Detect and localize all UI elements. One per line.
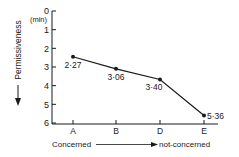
- y-axis-label: Permissiveness: [13, 20, 23, 106]
- data-point: [158, 77, 162, 81]
- x-tick-label: B: [113, 126, 119, 136]
- data-point: [114, 67, 118, 71]
- right-arrow-icon: [151, 142, 158, 147]
- x-tick-label: D: [157, 126, 163, 136]
- y-tick-label: 2: [44, 44, 49, 54]
- x-label-left: Concerned: [52, 140, 91, 149]
- y-tick-label: 6: [44, 118, 49, 128]
- y-ticks: 0123456: [44, 6, 56, 128]
- y-tick-label: 4: [44, 81, 49, 91]
- data-point-label: 2·27: [64, 60, 81, 70]
- data-point-label: 3·06: [107, 72, 124, 82]
- data-line: [73, 57, 204, 116]
- data-points: 2·273·063·405·36: [64, 55, 224, 121]
- data-point-label: 5·36: [207, 111, 224, 121]
- y-unit-label: (min): [30, 15, 48, 24]
- y-axis-title: Permissiveness: [13, 20, 23, 80]
- down-arrow-icon: [15, 98, 21, 106]
- data-point: [202, 114, 206, 118]
- x-ticks: ABDE: [70, 120, 207, 136]
- y-tick-label: 3: [44, 62, 49, 72]
- permissiveness-chart: Permissiveness 0123456 (min) ABDE 2·273·…: [0, 0, 239, 157]
- data-point: [71, 55, 75, 59]
- x-label-right: not-concerned: [159, 140, 210, 149]
- data-point-label: 3·40: [145, 82, 162, 92]
- x-tick-label: E: [201, 126, 207, 136]
- y-tick-label: 1: [44, 25, 49, 35]
- y-tick-label: 5: [44, 100, 49, 110]
- x-tick-label: A: [70, 126, 76, 136]
